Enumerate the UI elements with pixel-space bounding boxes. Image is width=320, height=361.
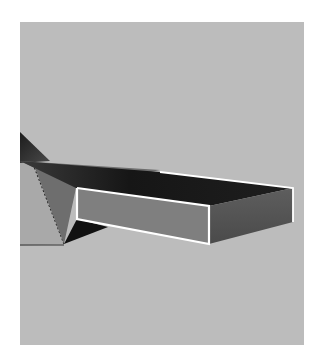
scene-canvas[interactable]	[0, 0, 320, 361]
fin[interactable]	[20, 132, 50, 163]
